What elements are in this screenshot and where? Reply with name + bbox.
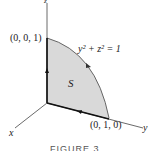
arrow-arc-icon	[86, 63, 91, 68]
curve-equation-label: y² + z² = 1	[78, 44, 121, 54]
y-axis-label: y	[143, 123, 147, 133]
z-axis-label: z	[44, 0, 47, 5]
x-axis-label: x	[9, 128, 13, 138]
surface-label: S	[68, 78, 74, 89]
point-z-label: (0, 0, 1)	[10, 33, 42, 43]
figure-diagram	[0, 0, 148, 151]
x-axis	[15, 103, 47, 128]
point-y-label: (0, 1, 0)	[90, 120, 122, 130]
figure-caption: FIGURE 3	[50, 144, 100, 151]
